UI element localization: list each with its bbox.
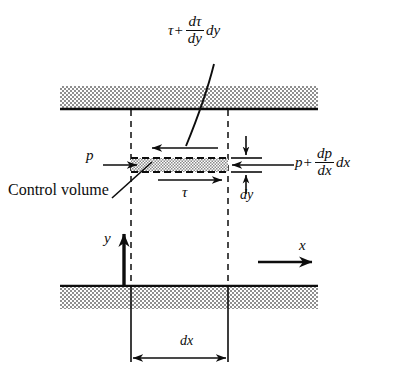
control-volume-figure: τ+ dτ dy dy p+ dp dx dx p τ dy dx y x Co… xyxy=(0,0,403,375)
top-shear-denominator: dy xyxy=(186,30,204,46)
right-pressure-lead: p xyxy=(295,154,303,170)
cv-boundary-lines xyxy=(131,110,228,286)
left-pressure-label: p xyxy=(86,148,94,163)
top-wall xyxy=(60,86,318,109)
dy-label: dy xyxy=(240,188,253,202)
right-pressure-formula: p+ dp dx dx xyxy=(295,148,350,180)
right-pressure-numerator: dp xyxy=(315,146,334,161)
control-volume-label: Control volume xyxy=(8,182,109,198)
x-axis-label: x xyxy=(299,238,306,253)
right-pressure-denominator: dx xyxy=(315,162,334,178)
y-axis-label: y xyxy=(104,231,111,246)
right-pressure-trail: dx xyxy=(336,154,350,170)
bottom-wall xyxy=(60,286,318,309)
top-shear-trail: dy xyxy=(206,22,220,38)
top-shear-operator: + xyxy=(173,22,183,38)
top-shear-numerator: dτ xyxy=(186,14,204,29)
right-pressure-operator: + xyxy=(303,154,313,170)
dx-label: dx xyxy=(180,334,193,348)
shear-stress-label: τ xyxy=(182,185,187,200)
control-volume-element xyxy=(131,158,228,172)
top-shear-formula: τ+ dτ dy dy xyxy=(168,16,220,48)
